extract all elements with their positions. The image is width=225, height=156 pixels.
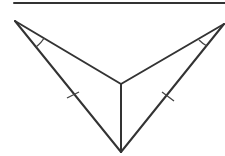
segment-right-upper — [121, 24, 224, 84]
geometry-diagram — [0, 0, 225, 156]
segment-left-upper — [15, 21, 121, 84]
angle-arc-right — [199, 40, 207, 46]
segment-right-lower — [121, 24, 224, 152]
angle-arc-left — [36, 38, 44, 47]
segment-left-lower — [15, 21, 121, 152]
